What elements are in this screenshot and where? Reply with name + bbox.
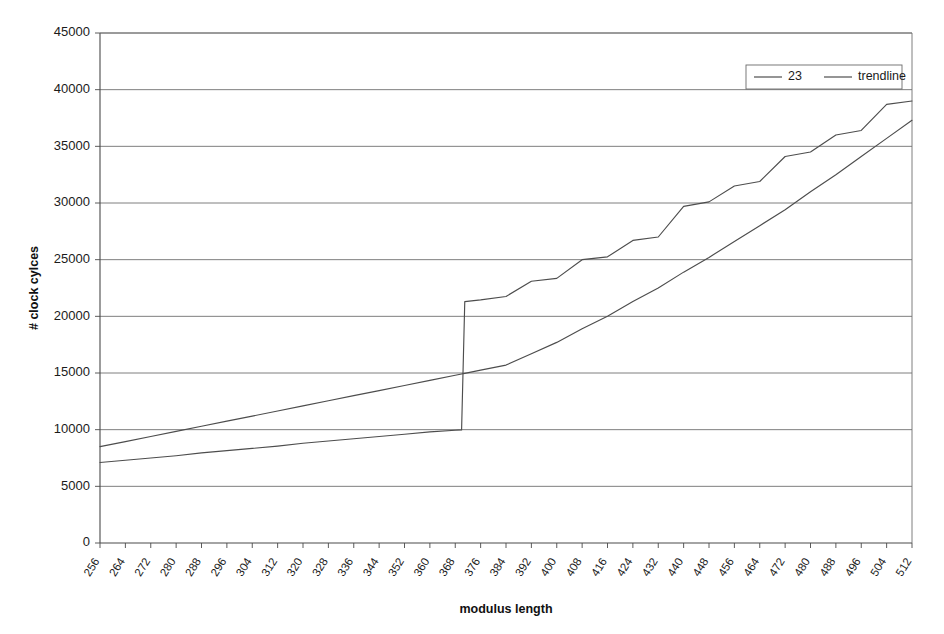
x-tick-label: 512 bbox=[893, 556, 913, 579]
x-tick-label: 384 bbox=[487, 555, 508, 578]
x-tick-label: 416 bbox=[589, 556, 609, 579]
x-tick-label: 256 bbox=[81, 556, 101, 579]
x-tick-label: 488 bbox=[817, 556, 837, 579]
chart-container: 0500010000150002000025000300003500040000… bbox=[0, 0, 944, 634]
legend-label-23: 23 bbox=[788, 69, 802, 83]
y-tick-label: 10000 bbox=[54, 421, 90, 436]
y-tickmark-group bbox=[95, 33, 100, 543]
x-tick-label: 496 bbox=[843, 556, 863, 579]
y-tick-label: 25000 bbox=[54, 251, 90, 266]
x-axis-tick-labels: 2562642722802882963043123203283363443523… bbox=[81, 555, 913, 578]
y-tick-label: 5000 bbox=[61, 478, 90, 493]
x-tick-label: 280 bbox=[157, 556, 177, 579]
y-tick-label: 15000 bbox=[54, 364, 90, 379]
data-series-group bbox=[100, 101, 912, 463]
x-tick-label: 296 bbox=[208, 556, 228, 579]
y-tick-label: 30000 bbox=[54, 194, 90, 209]
x-tick-label: 328 bbox=[310, 556, 330, 579]
series-line-23 bbox=[100, 101, 912, 463]
x-tick-label: 360 bbox=[411, 556, 431, 579]
line-chart: 0500010000150002000025000300003500040000… bbox=[0, 0, 944, 634]
y-tick-label: 35000 bbox=[54, 138, 90, 153]
x-tick-label: 336 bbox=[335, 556, 355, 579]
x-tick-label: 480 bbox=[792, 556, 812, 579]
x-tick-label: 272 bbox=[132, 556, 152, 579]
x-tick-label: 368 bbox=[437, 556, 457, 579]
x-tick-label: 408 bbox=[563, 556, 583, 579]
x-tickmark-group bbox=[100, 543, 912, 548]
x-tick-label: 304 bbox=[234, 555, 255, 578]
x-tick-label: 288 bbox=[183, 556, 203, 579]
x-tick-label: 344 bbox=[360, 555, 381, 578]
x-tick-label: 352 bbox=[386, 556, 406, 579]
x-tick-label: 448 bbox=[690, 556, 710, 579]
series-line-trendline bbox=[100, 120, 912, 446]
x-tick-label: 432 bbox=[640, 556, 660, 579]
x-tick-label: 264 bbox=[107, 555, 128, 578]
legend-label-trendline: trendline bbox=[858, 69, 906, 83]
y-tick-label: 45000 bbox=[54, 24, 90, 39]
x-tick-label: 400 bbox=[538, 556, 558, 579]
y-tick-label: 0 bbox=[83, 534, 90, 549]
x-tick-label: 440 bbox=[665, 556, 685, 579]
x-axis-title: modulus length bbox=[459, 602, 552, 616]
x-tick-label: 504 bbox=[868, 555, 889, 578]
y-tick-label: 40000 bbox=[54, 81, 90, 96]
x-tick-label: 464 bbox=[741, 555, 762, 578]
x-tick-label: 472 bbox=[766, 556, 786, 579]
x-tick-label: 392 bbox=[513, 556, 533, 579]
x-tick-label: 320 bbox=[284, 556, 304, 579]
x-tick-label: 312 bbox=[259, 556, 279, 579]
axis-line-group bbox=[100, 33, 912, 543]
gridline-group bbox=[100, 33, 912, 486]
chart-legend: 23trendline bbox=[746, 65, 906, 89]
x-tick-label: 376 bbox=[462, 556, 482, 579]
y-axis-title: # clock cylces bbox=[27, 246, 41, 330]
y-tick-label: 20000 bbox=[54, 308, 90, 323]
x-tick-label: 424 bbox=[614, 555, 635, 578]
y-axis-tick-labels: 0500010000150002000025000300003500040000… bbox=[54, 24, 90, 549]
x-tick-label: 456 bbox=[716, 556, 736, 579]
